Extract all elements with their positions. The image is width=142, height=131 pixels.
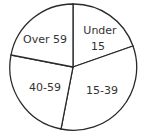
- label-40-59: 40-59: [29, 81, 61, 94]
- label-15-39: 15-39: [86, 84, 118, 97]
- label-over-59: Over 59: [23, 33, 67, 46]
- age-pie-chart: Under 15 15-39 40-59 Over 59: [0, 0, 142, 131]
- label-under-15-line1: Under: [83, 24, 117, 37]
- label-under-15-line2: 15: [91, 40, 105, 53]
